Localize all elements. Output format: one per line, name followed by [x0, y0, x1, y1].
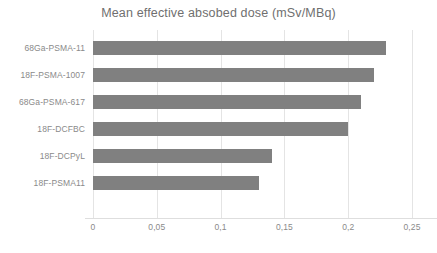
- bar-row: [93, 176, 259, 190]
- bar-row: [93, 122, 348, 136]
- x-tick-label-4: 0,2: [342, 222, 354, 232]
- bar-row: [93, 41, 386, 55]
- bar-chart-figure: Mean effective absobed dose (mSv/MBq) 68…: [0, 0, 437, 253]
- x-tick-label-1: 0,05: [148, 222, 165, 232]
- plot-area: [93, 30, 412, 218]
- bar-18f-psma-1007: [93, 68, 374, 82]
- y-axis-label-1: 18F-PSMA-1007: [20, 68, 85, 82]
- bar-row: [93, 149, 272, 163]
- y-axis-label-2: 68Ga-PSMA-617: [19, 95, 85, 109]
- bar-row: [93, 68, 374, 82]
- chart-title: Mean effective absobed dose (mSv/MBq): [0, 6, 437, 20]
- x-axis-line: [85, 218, 437, 219]
- x-tick-label-2: 0,1: [215, 222, 227, 232]
- y-axis-label-5: 18F-PSMA11: [34, 176, 85, 190]
- x-axis-tick-labels: 0 0,05 0,1 0,15 0,2 0,25: [0, 222, 437, 242]
- bar-18f-dcfbc: [93, 122, 348, 136]
- bar-18f-dcpyl: [93, 149, 272, 163]
- bar-row: [93, 95, 361, 109]
- x-tick-label-3: 0,15: [276, 222, 293, 232]
- y-axis-label-4: 18F-DCPyL: [40, 149, 85, 163]
- x-tick-label-5: 0,25: [404, 222, 421, 232]
- bar-18f-psma11: [93, 176, 259, 190]
- bar-68ga-psma-11: [93, 41, 386, 55]
- y-axis-label-0: 68Ga-PSMA-11: [24, 41, 85, 55]
- x-tick-label-0: 0: [91, 222, 96, 232]
- y-axis-category-labels: 68Ga-PSMA-11 18F-PSMA-1007 68Ga-PSMA-617…: [0, 30, 89, 218]
- gridline-5: [412, 30, 413, 218]
- gridline-4: [348, 30, 349, 218]
- bar-68ga-psma-617: [93, 95, 361, 109]
- y-axis-label-3: 18F-DCFBC: [37, 122, 85, 136]
